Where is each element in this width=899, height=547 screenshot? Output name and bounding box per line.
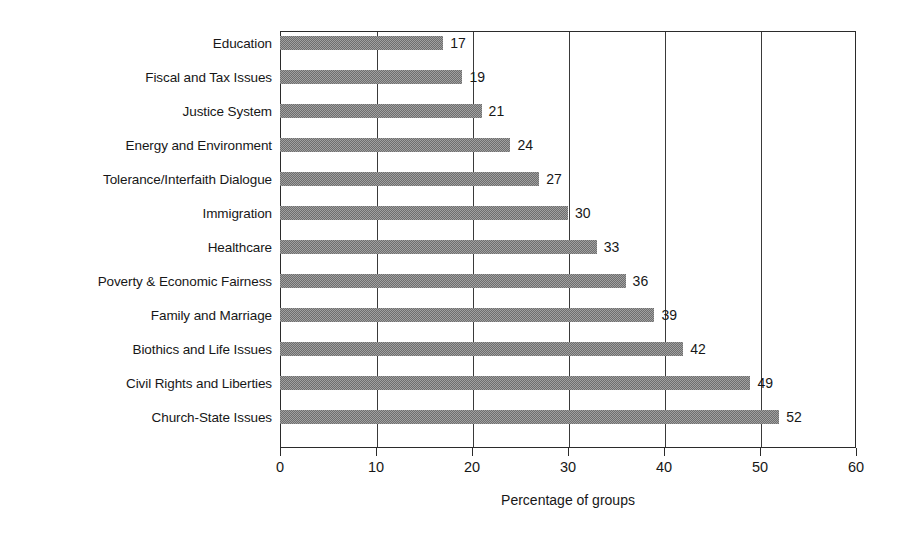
category-label: Education — [0, 37, 272, 51]
x-tick-label-60: 60 — [848, 459, 864, 476]
category-axis-labels: EducationFiscal and Tax IssuesJustice Sy… — [0, 31, 272, 448]
x-axis-tick-labels: 0102030405060 — [280, 459, 856, 479]
x-tick-label-0: 0 — [276, 459, 284, 476]
bar-value-label: 30 — [575, 206, 591, 220]
bar-value-label: 36 — [633, 274, 649, 288]
bars-layer: 171921242730333639424952 — [280, 31, 856, 448]
bar — [280, 206, 568, 220]
category-label: Fiscal and Tax Issues — [0, 71, 272, 85]
x-axis-ticks — [280, 448, 856, 456]
x-tick-30 — [568, 448, 569, 456]
bar-value-label: 21 — [489, 104, 505, 118]
category-label: Immigration — [0, 207, 272, 221]
bar — [280, 308, 654, 322]
x-tick-label-10: 10 — [368, 459, 384, 476]
bar-value-label: 49 — [757, 376, 773, 390]
bar — [280, 70, 462, 84]
bar-value-label: 42 — [690, 342, 706, 356]
bar-value-label: 33 — [604, 240, 620, 254]
category-label: Poverty & Economic Fairness — [0, 275, 272, 289]
bar — [280, 138, 510, 152]
x-tick-label-50: 50 — [752, 459, 768, 476]
x-tick-label-40: 40 — [656, 459, 672, 476]
category-label: Justice System — [0, 105, 272, 119]
x-tick-20 — [472, 448, 473, 456]
category-label: Biothics and Life Issues — [0, 343, 272, 357]
bar-value-label: 19 — [469, 70, 485, 84]
bar — [280, 172, 539, 186]
x-tick-60 — [856, 448, 857, 456]
bar-chart: EducationFiscal and Tax IssuesJustice Sy… — [0, 0, 899, 547]
bar — [280, 410, 779, 424]
category-label: Energy and Environment — [0, 139, 272, 153]
bar-value-label: 17 — [450, 36, 466, 50]
category-label: Civil Rights and Liberties — [0, 377, 272, 391]
bar — [280, 342, 683, 356]
category-label: Healthcare — [0, 241, 272, 255]
bar — [280, 104, 482, 118]
x-axis-title: Percentage of groups — [280, 492, 856, 509]
x-tick-50 — [760, 448, 761, 456]
category-label: Tolerance/Interfaith Dialogue — [0, 173, 272, 187]
bar — [280, 376, 750, 390]
bar-value-label: 39 — [661, 308, 677, 322]
bar-value-label: 52 — [786, 410, 802, 424]
x-tick-0 — [280, 448, 281, 456]
x-tick-label-30: 30 — [560, 459, 576, 476]
x-tick-label-20: 20 — [464, 459, 480, 476]
bar — [280, 36, 443, 50]
category-label: Church-State Issues — [0, 411, 272, 425]
x-tick-40 — [664, 448, 665, 456]
bar — [280, 240, 597, 254]
bar-value-label: 24 — [517, 138, 533, 152]
category-label: Family and Marriage — [0, 309, 272, 323]
bar — [280, 274, 626, 288]
x-tick-10 — [376, 448, 377, 456]
bar-value-label: 27 — [546, 172, 562, 186]
